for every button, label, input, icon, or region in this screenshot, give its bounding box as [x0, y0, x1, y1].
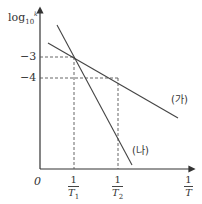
origin-label: 0 [34, 176, 41, 187]
series-label-na: (나) [132, 146, 149, 156]
x-axis-label-den: T [185, 187, 192, 198]
x-tick-t2-T: T [112, 187, 119, 198]
line-series-ga [48, 43, 178, 118]
x-tick-t2-den: T2 [112, 187, 123, 201]
x-tick-t2: 1 T2 [112, 175, 123, 201]
y-axis-label-log: log [8, 11, 25, 24]
x-tick-t1-sub: 1 [75, 193, 79, 201]
x-tick-t2-num: 1 [114, 175, 120, 186]
x-tick-t1-num: 1 [70, 175, 76, 186]
y-axis-label: log10k [8, 11, 38, 26]
line-series-na [57, 25, 132, 165]
series-label-ga: (가) [171, 95, 188, 105]
y-axis-label-sub: 10 [25, 18, 34, 26]
x-tick-t1: 1 T1 [68, 175, 79, 201]
x-axis-label: 1 T [184, 175, 193, 198]
y-axis-label-k: k [34, 10, 38, 17]
y-tick-minus4: −4 [20, 72, 36, 83]
x-tick-t1-den: T1 [68, 187, 79, 201]
x-axis-label-num: 1 [185, 175, 191, 186]
x-tick-t2-sub: 2 [119, 193, 123, 201]
x-tick-t1-T: T [68, 187, 75, 198]
y-tick-minus3: −3 [20, 51, 36, 62]
